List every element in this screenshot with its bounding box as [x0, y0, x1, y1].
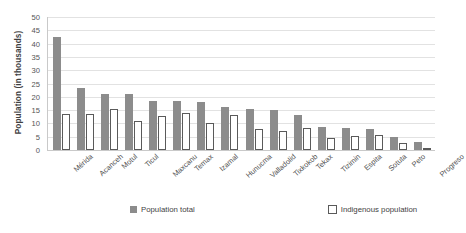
chart-legend: Population total Indigenous population	[47, 205, 435, 214]
bar-group	[339, 17, 363, 150]
bar-population-total	[53, 37, 61, 150]
y-axis-tick-label: 35	[32, 52, 40, 61]
y-axis-tick-label: 10	[32, 119, 40, 128]
x-axis-tick-label: Sotuta	[387, 152, 409, 173]
bar-group	[49, 17, 73, 150]
bar-indigenous-population	[351, 136, 359, 150]
y-axis-tick-label: 50	[32, 13, 40, 22]
bar-group	[290, 17, 314, 150]
bar-indigenous-population	[279, 131, 287, 150]
bar-population-total	[125, 94, 133, 150]
y-axis-tick-label: 5	[36, 132, 40, 141]
x-axis-tick-label: Peto	[410, 152, 427, 169]
bar-groups	[47, 17, 435, 150]
x-axis-tick-label: Espita	[362, 152, 383, 172]
bar-group	[314, 17, 338, 150]
bar-indigenous-population	[158, 116, 166, 150]
x-axis-tick-label: Hunucma	[244, 152, 274, 180]
legend-swatch-icon-population-total	[130, 206, 137, 213]
bar-indigenous-population	[110, 109, 118, 150]
bar-indigenous-population	[399, 143, 407, 150]
bar-indigenous-population	[86, 114, 94, 150]
bar-indigenous-population	[423, 148, 431, 150]
legend-item-population-total: Population total	[130, 205, 195, 214]
bar-population-total	[342, 128, 350, 150]
legend-item-indigenous-population: Indigenous population	[328, 205, 417, 214]
bar-indigenous-population	[255, 129, 263, 150]
bar-population-total	[318, 127, 326, 150]
y-axis-tick-label: 20	[32, 92, 40, 101]
bar-group	[170, 17, 194, 150]
x-axis-tick-label: Izamal	[217, 152, 239, 173]
y-axis-tick-label: 0	[36, 146, 40, 155]
bar-population-total	[270, 110, 278, 150]
x-axis-tick-label: Tizimin	[339, 152, 362, 174]
bar-group	[242, 17, 266, 150]
x-axis-tick-label: Progreso	[438, 152, 466, 179]
bar-indigenous-population	[62, 114, 70, 150]
legend-label-indigenous-population: Indigenous population	[341, 205, 417, 214]
x-axis-tick-labels: MéridaAcancehMotulTiculMaxcanuTemaxIzama…	[47, 152, 435, 200]
bar-population-total	[414, 142, 422, 151]
bar-group	[97, 17, 121, 150]
bar-group	[218, 17, 242, 150]
y-axis-tick-label: 45	[32, 26, 40, 35]
plot-area	[47, 17, 435, 150]
x-axis-tick-label: Mérida	[72, 152, 95, 174]
bar-group	[73, 17, 97, 150]
bar-group	[387, 17, 411, 150]
bar-group	[194, 17, 218, 150]
bar-group	[363, 17, 387, 150]
bar-population-total	[101, 94, 109, 150]
bar-indigenous-population	[134, 121, 142, 150]
bar-indigenous-population	[327, 138, 335, 150]
y-axis-tick-label: 25	[32, 79, 40, 88]
bar-indigenous-population	[303, 128, 311, 150]
bar-population-total	[77, 88, 85, 150]
bar-population-total	[197, 102, 205, 150]
bar-population-total	[294, 115, 302, 150]
y-axis-tick-labels: 05101520253035404550	[0, 17, 44, 150]
legend-label-population-total: Population total	[141, 205, 195, 214]
bar-indigenous-population	[206, 123, 214, 150]
bar-group	[266, 17, 290, 150]
bar-population-total	[149, 101, 157, 150]
bar-indigenous-population	[182, 113, 190, 151]
bar-group	[121, 17, 145, 150]
bar-group	[411, 17, 435, 150]
y-axis-tick-label: 15	[32, 106, 40, 115]
y-axis-tick-label: 40	[32, 39, 40, 48]
bar-population-total	[390, 137, 398, 150]
x-axis-tick-label: Ticul	[143, 152, 160, 169]
bar-group	[146, 17, 170, 150]
bar-indigenous-population	[375, 135, 383, 150]
bar-population-total	[246, 109, 254, 150]
legend-swatch-icon-indigenous-population	[328, 205, 337, 214]
bar-indigenous-population	[230, 115, 238, 150]
bar-population-total	[221, 107, 229, 150]
bar-population-total	[366, 129, 374, 150]
y-axis-tick-label: 30	[32, 66, 40, 75]
bar-population-total	[173, 101, 181, 150]
